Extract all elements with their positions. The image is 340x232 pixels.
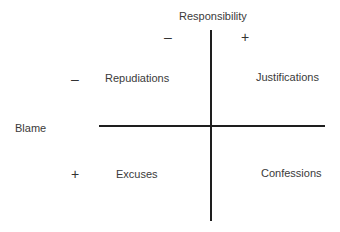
horizontal-axis-line xyxy=(99,125,325,127)
quadrant-excuses: Excuses xyxy=(116,168,158,181)
quadrant-confessions: Confessions xyxy=(261,167,322,180)
responsibility-minus-sign: – xyxy=(164,30,172,44)
responsibility-plus-sign: + xyxy=(241,30,249,44)
blame-axis-label: Blame xyxy=(15,122,46,135)
blame-minus-sign: – xyxy=(71,72,79,86)
responsibility-axis-label: Responsibility xyxy=(179,10,247,23)
quadrant-justifications: Justifications xyxy=(256,71,319,84)
blame-plus-sign: + xyxy=(71,167,79,181)
quadrant-repudiations: Repudiations xyxy=(105,72,169,85)
